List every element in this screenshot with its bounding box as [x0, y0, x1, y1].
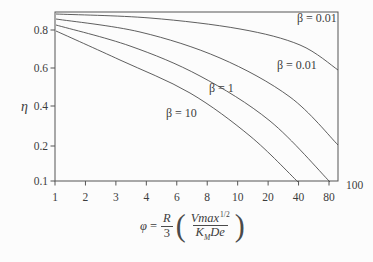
x-tick-label: 40	[293, 191, 305, 203]
x-tick-label: 3	[113, 191, 119, 203]
coefficient-fraction: R 3	[160, 212, 174, 239]
coef-denominator: 3	[161, 226, 173, 240]
curve-labels: β = 0.01β = 0.01β = 1β = 10	[166, 11, 337, 120]
y-tick-label: 0.4	[34, 100, 49, 112]
y-axis-label: η	[21, 99, 28, 114]
exponent: 1/2	[220, 210, 230, 219]
equals-sign: =	[150, 219, 157, 234]
curve-label-beta-1: β = 1	[209, 81, 234, 95]
x-tick-labels: 12346810204080	[52, 191, 335, 203]
curve-label-beta-0.01-upper: β = 0.01	[297, 11, 337, 25]
y-tick-label: 0.1	[34, 175, 49, 187]
x-tick-label: 8	[204, 191, 210, 203]
curve-label-beta-10: β = 10	[166, 106, 197, 120]
x-tick-label: 4	[143, 191, 149, 203]
inner-denominator: KMDe	[193, 225, 228, 241]
x-tick-label: 1	[52, 191, 58, 203]
y-tick-label: 0.6	[34, 62, 49, 74]
effectiveness-factor-figure: 12346810204080 0.80.60.40.20.1 β = 0.01β…	[0, 0, 373, 262]
y-tick-label: 0.8	[34, 24, 49, 36]
curve-beta-1	[56, 25, 330, 182]
x-tick-label: 6	[174, 191, 180, 203]
x-tick-label: 20	[262, 191, 274, 203]
y-tick-labels: 0.80.60.40.20.1	[34, 24, 49, 187]
close-paren: )	[235, 210, 245, 242]
open-paren: (	[176, 210, 186, 242]
coef-numerator: R	[163, 211, 171, 225]
x-tick-label: 10	[232, 191, 244, 203]
curve-beta-0.01-lower	[56, 19, 338, 145]
curves	[56, 14, 338, 182]
x-axis-formula: φ = R 3 ( Vmax1/2 KMDe )	[140, 205, 244, 247]
y-tick-label: 0.2	[34, 140, 49, 152]
inner-fraction: Vmax1/2 KMDe	[188, 211, 233, 242]
curve-label-beta-0.01-lower: β = 0.01	[277, 58, 317, 72]
x-tick-label: 80	[323, 191, 335, 203]
x-tick-label: 2	[83, 191, 89, 203]
inner-numerator: Vmax1/2	[188, 211, 233, 225]
x-end-label: 100	[346, 179, 364, 191]
phi-symbol: φ	[140, 219, 147, 234]
